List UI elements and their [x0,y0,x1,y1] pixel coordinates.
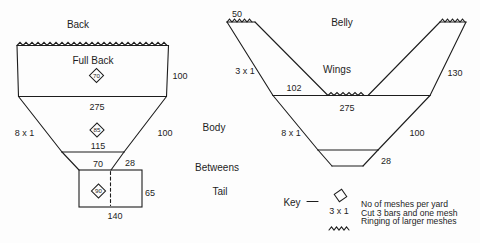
back-body-depth: 100 [157,128,172,138]
back-betweens-width: 70 [93,159,103,169]
belly-body-cut-rate: 8 x 1 [281,128,301,138]
belly-body-left-edge [273,96,318,151]
wing-depth: 130 [447,68,462,78]
back-body-cut-rate: 8 x 1 [15,128,35,138]
wing-tip-width: 50 [232,9,242,19]
section-labels: Body Betweens Tail [195,122,239,197]
tail-width: 140 [107,211,122,221]
back-body-bottom-width: 115 [91,141,105,151]
full-back-depth: 100 [172,71,187,81]
belly-panel: Belly 50 3 x 1 Wings 130 102 275 8 x 1 1… [227,9,466,166]
belly-join-zigzag-icon [328,93,364,96]
belly-betweens-depth: 28 [381,156,391,166]
tail-depth: 65 [145,188,155,198]
mesh-diamond-icon: 90 [91,184,105,198]
key-diamond-icon [334,189,347,202]
key-label: Key [283,197,300,208]
belly-body-right-edge [378,96,430,151]
section-label-betweens: Betweens [195,162,239,173]
back-body-left-edge [19,97,63,153]
wings-label: Wings [323,64,351,75]
back-betweens-depth: 28 [125,158,135,168]
back-betweens-right-edge [111,152,124,170]
section-label-tail: Tail [212,186,227,197]
key-zigzag-icon [329,227,349,230]
back-panel: Back Full Back 70 100 275 8 x 1 85 100 1… [15,19,188,221]
full-back-mesh-count: 70 [93,72,100,79]
belly-body-depth: 100 [409,128,424,138]
back-body-right-edge [124,97,167,153]
full-back-bottom-width: 275 [89,102,104,112]
back-panel-title: Back [67,19,90,30]
mesh-diamond-icon: 85 [90,123,104,137]
back-betweens-left-edge [62,152,79,170]
section-label-body: Body [203,122,226,133]
right-wing-inner-edge [368,22,440,96]
belly-betweens-right-edge [363,150,378,166]
key-zigzag-description: Ringing of larger meshes [361,216,457,226]
belly-top-width: 275 [339,103,354,113]
belly-betweens-left-edge [318,150,332,166]
right-wing-outer-edge [430,22,466,96]
belly-panel-title: Belly [331,17,353,28]
key-cut-symbol: 3 x 1 [329,206,349,216]
back-body-mesh-count: 85 [94,126,101,133]
wing-bottom-width: 102 [286,83,301,93]
key-legend: Key No of meshes per yard 3 x 1 Cut 3 ba… [283,189,457,230]
tail-mesh-count: 90 [95,187,102,194]
net-design-diagram: Back Full Back 70 100 275 8 x 1 85 100 1… [0,0,480,243]
mesh-diamond-icon: 70 [89,68,103,82]
full-back-label: Full Back [72,55,114,66]
wing-cut-rate: 3 x 1 [235,66,255,76]
